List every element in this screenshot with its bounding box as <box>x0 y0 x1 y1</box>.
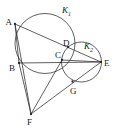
vertex-dot-c <box>61 59 63 61</box>
vertex-dot-g <box>71 80 73 82</box>
point-label-d: D <box>63 38 70 48</box>
geometry-figure: A B C D E F G K1 K2 <box>0 0 117 128</box>
vertex-dot-e <box>100 61 102 63</box>
circle-label-k2: K2 <box>83 41 93 53</box>
point-label-f: F <box>27 117 32 127</box>
segment-bf <box>19 63 31 114</box>
segment-fe <box>31 62 101 114</box>
segment-ce <box>62 60 101 62</box>
circle-label-k2-subscript: 2 <box>90 47 93 53</box>
segment-cf <box>31 60 62 114</box>
vertex-dot-a <box>14 23 16 25</box>
point-label-b: B <box>9 63 15 73</box>
vertex-dot-b <box>18 62 20 64</box>
point-label-c: C <box>55 50 61 60</box>
geometry-canvas: A B C D E F G K1 K2 <box>0 0 117 128</box>
circle-label-k1-subscript: 1 <box>68 11 71 17</box>
point-label-e: E <box>104 58 110 68</box>
point-label-a: A <box>6 17 13 27</box>
circle-label-k1: K1 <box>61 5 71 17</box>
vertex-dot-f <box>30 113 32 115</box>
point-label-g: G <box>70 86 77 96</box>
